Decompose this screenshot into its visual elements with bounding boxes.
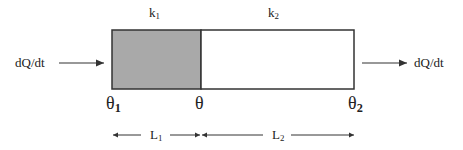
- k1-subscript: 1: [156, 11, 160, 21]
- theta1-label: θ1: [106, 93, 121, 116]
- heat-out-label: dQ/dt: [414, 55, 444, 71]
- heat-in-label: dQ/dt: [15, 55, 45, 71]
- theta1-subscript: 1: [115, 101, 121, 115]
- theta2-subscript: 2: [357, 101, 363, 115]
- l1-label: L1: [150, 127, 162, 143]
- theta2-label: θ2: [348, 93, 363, 116]
- diagram-canvas: [0, 0, 463, 150]
- layer1-block: [112, 30, 201, 89]
- l1-subscript: 1: [158, 133, 162, 143]
- k2-subscript: 2: [275, 11, 279, 21]
- k2-label: k2: [268, 5, 279, 21]
- l2-symbol: L: [272, 127, 280, 142]
- l2-label: L2: [272, 127, 284, 143]
- theta2-symbol: θ: [348, 93, 357, 113]
- l2-subscript: 2: [280, 133, 284, 143]
- theta1-symbol: θ: [106, 93, 115, 113]
- k1-label: k1: [149, 5, 160, 21]
- theta-interface-label: θ: [195, 93, 204, 114]
- l1-symbol: L: [150, 127, 158, 142]
- layer2-block: [201, 30, 354, 89]
